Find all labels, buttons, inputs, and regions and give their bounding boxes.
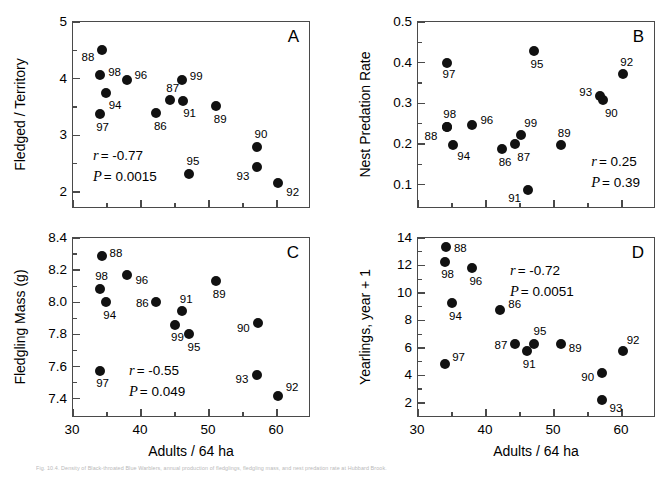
- data-point-label: 88: [454, 242, 467, 254]
- y-tick-major: [418, 375, 425, 376]
- y-tick-minor: [418, 279, 422, 280]
- data-point: [529, 339, 539, 349]
- y-tick-minor: [418, 251, 422, 252]
- data-point-label: 94: [449, 310, 462, 322]
- data-point: [618, 346, 628, 356]
- data-point-label: 91: [523, 358, 536, 370]
- y-tick-label: 6: [379, 339, 412, 354]
- y-tick-label: 14: [379, 230, 412, 245]
- data-point-label: 93: [610, 402, 623, 414]
- y-tick-label: 2: [379, 394, 412, 409]
- y-tick-minor: [418, 306, 422, 307]
- data-point: [597, 395, 607, 405]
- x-tick-label: 40: [477, 422, 492, 437]
- figure-caption: Fig. 10.4. Density of Black-throated Blu…: [36, 466, 636, 477]
- stats-p: P = 0.0051: [510, 281, 574, 302]
- y-tick-major: [418, 265, 425, 266]
- y-tick-major: [418, 347, 425, 348]
- y-tick-label: 12: [379, 257, 412, 272]
- data-point-label: 97: [452, 351, 465, 363]
- stats-r-value: = -0.72: [518, 261, 560, 281]
- y-tick-major: [418, 237, 425, 238]
- data-point: [447, 298, 457, 308]
- data-point: [495, 305, 505, 315]
- y-tick-major: [418, 292, 425, 293]
- stats-r: r = -0.72: [510, 260, 574, 281]
- y-tick-label: 10: [379, 284, 412, 299]
- data-point: [597, 368, 607, 378]
- x-tick-minor: [451, 412, 452, 416]
- data-point-label: 96: [469, 275, 482, 287]
- data-point-label: 89: [569, 342, 582, 354]
- y-tick-label: 8: [379, 312, 412, 327]
- x-axis-title: Adults / 64 ha: [417, 443, 655, 459]
- data-point: [441, 242, 451, 252]
- x-tick-minor: [519, 412, 520, 416]
- data-point: [510, 339, 520, 349]
- y-axis-title: Yearlings, year + 1: [357, 237, 373, 417]
- data-point: [440, 257, 450, 267]
- x-tick-major: [485, 409, 486, 416]
- panel-letter-d: D: [632, 243, 644, 263]
- x-tick-label: 50: [545, 422, 560, 437]
- data-point: [467, 263, 477, 273]
- x-tick-major: [417, 409, 418, 416]
- y-tick-minor: [418, 361, 422, 362]
- y-tick-minor: [418, 334, 422, 335]
- y-tick-label: 4: [379, 367, 412, 382]
- data-point-label: 95: [534, 325, 547, 337]
- x-tick-label: 30: [409, 422, 424, 437]
- x-tick-label: 60: [613, 422, 628, 437]
- x-tick-minor: [587, 412, 588, 416]
- plot-area-d: D88989694869787919589909392r = -0.72P = …: [417, 237, 655, 417]
- data-point-label: 90: [581, 371, 594, 383]
- y-tick-major: [418, 320, 425, 321]
- data-point: [556, 339, 566, 349]
- y-tick-minor: [418, 388, 422, 389]
- figure-root: 2345A8898949796868791999589909392r = -0.…: [0, 0, 668, 477]
- stats-annotation: r = -0.72P = 0.0051: [510, 260, 574, 302]
- panel-d: 304050602468101214D889896948697879195899…: [0, 0, 668, 477]
- data-point-label: 87: [495, 339, 508, 351]
- data-point-label: 92: [627, 334, 640, 346]
- data-point-label: 98: [441, 268, 454, 280]
- x-tick-major: [553, 409, 554, 416]
- data-point: [440, 359, 450, 369]
- y-tick-major: [418, 402, 425, 403]
- stats-p-value: = 0.0051: [521, 282, 574, 302]
